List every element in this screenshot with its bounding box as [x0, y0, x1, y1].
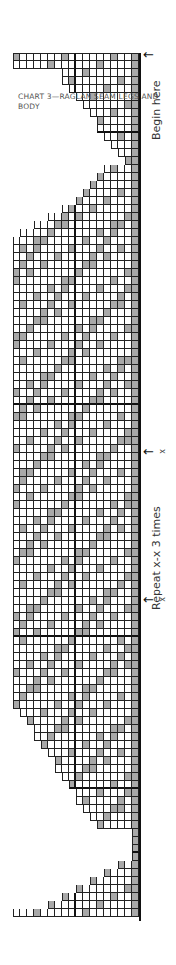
stitch-cell: [62, 669, 69, 677]
stitch-cell: [132, 557, 139, 565]
stitch-cell: [48, 469, 55, 477]
stitch-cell: [48, 309, 55, 317]
blank-cell: [48, 853, 55, 861]
stitch-cell: [55, 685, 62, 693]
stitch-cell: [69, 69, 76, 77]
blank-cell: [62, 805, 69, 813]
stitch-cell: [13, 317, 20, 325]
stitch-cell: [41, 493, 48, 501]
stitch-cell: [83, 253, 90, 261]
blank-cell: [69, 157, 76, 165]
blank-cell: [55, 837, 62, 845]
stitch-cell: [111, 445, 118, 453]
stitch-cell: [34, 285, 41, 293]
stitch-cell: [34, 445, 41, 453]
stitch-cell: [20, 613, 27, 621]
stitch-cell: [62, 597, 69, 605]
stitch-cell: [90, 253, 97, 261]
blank-cell: [55, 117, 62, 125]
stitch-cell: [125, 589, 132, 597]
stitch-cell: [83, 389, 90, 397]
stitch-cell: [41, 645, 48, 653]
blank-cell: [90, 165, 97, 173]
blank-cell: [27, 221, 34, 229]
stitch-cell: [76, 69, 83, 77]
stitch-cell: [132, 781, 139, 789]
stitch-cell: [111, 757, 118, 765]
stitch-cell: [69, 397, 76, 405]
stitch-cell: [55, 357, 62, 365]
repeat-end-arrow-icon: ←: [143, 595, 154, 605]
blank-cell: [13, 229, 20, 237]
stitch-cell: [41, 253, 48, 261]
blank-cell: [76, 133, 83, 141]
stitch-cell: [83, 405, 90, 413]
stitch-cell: [125, 173, 132, 181]
chart-row: [13, 501, 139, 509]
stitch-cell: [41, 301, 48, 309]
stitch-cell: [118, 117, 125, 125]
stitch-cell: [104, 341, 111, 349]
stitch-cell: [90, 245, 97, 253]
stitch-cell: [97, 197, 104, 205]
chart-row: [13, 645, 139, 653]
stitch-cell: [132, 237, 139, 245]
stitch-cell: [76, 261, 83, 269]
stitch-cell: [97, 605, 104, 613]
stitch-cell: [104, 477, 111, 485]
stitch-cell: [132, 909, 139, 917]
blank-cell: [62, 189, 69, 197]
stitch-cell: [97, 509, 104, 517]
chart-row: [13, 893, 139, 901]
blank-cell: [34, 205, 41, 213]
stitch-cell: [97, 397, 104, 405]
stitch-cell: [13, 269, 20, 277]
stitch-cell: [111, 389, 118, 397]
stitch-cell: [34, 597, 41, 605]
stitch-cell: [69, 693, 76, 701]
stitch-cell: [97, 877, 104, 885]
stitch-cell: [62, 429, 69, 437]
blank-cell: [62, 885, 69, 893]
stitch-cell: [90, 613, 97, 621]
stitch-cell: [20, 405, 27, 413]
stitch-cell: [62, 53, 69, 61]
stitch-cell: [48, 901, 55, 909]
stitch-cell: [34, 477, 41, 485]
stitch-cell: [132, 869, 139, 877]
stitch-cell: [83, 229, 90, 237]
stitch-cell: [55, 749, 62, 757]
blank-cell: [41, 781, 48, 789]
stitch-cell: [34, 669, 41, 677]
blank-cell: [62, 821, 69, 829]
blank-cell: [13, 125, 20, 133]
stitch-cell: [34, 605, 41, 613]
chart-row: [13, 869, 139, 877]
stitch-cell: [132, 149, 139, 157]
chart-row: [13, 885, 139, 893]
stitch-cell: [104, 621, 111, 629]
stitch-cell: [83, 589, 90, 597]
stitch-cell: [13, 613, 20, 621]
chart-row: [13, 605, 139, 613]
stitch-cell: [76, 893, 83, 901]
stitch-cell: [13, 573, 20, 581]
stitch-cell: [34, 493, 41, 501]
blank-cell: [76, 125, 83, 133]
stitch-cell: [62, 661, 69, 669]
chart-row: [13, 133, 139, 141]
stitch-cell: [62, 757, 69, 765]
stitch-cell: [27, 469, 34, 477]
stitch-cell: [104, 581, 111, 589]
stitch-cell: [90, 901, 97, 909]
stitch-cell: [104, 549, 111, 557]
stitch-cell: [62, 237, 69, 245]
blank-cell: [34, 133, 41, 141]
stitch-cell: [97, 597, 104, 605]
stitch-cell: [69, 653, 76, 661]
stitch-cell: [97, 893, 104, 901]
blank-cell: [76, 869, 83, 877]
stitch-cell: [118, 733, 125, 741]
stitch-cell: [132, 661, 139, 669]
stitch-cell: [118, 349, 125, 357]
